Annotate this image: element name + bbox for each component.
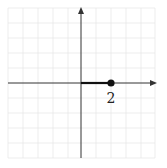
- point-label: 2: [107, 90, 116, 106]
- x-axis-arrow-icon: [150, 80, 157, 86]
- point-2-marker: [107, 79, 114, 86]
- coordinate-plane: 2: [0, 0, 167, 168]
